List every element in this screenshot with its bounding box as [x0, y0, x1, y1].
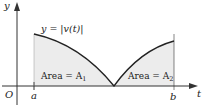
tick-b-label: b	[170, 91, 176, 102]
x-axis-label: t	[197, 88, 202, 99]
tick-a-label: a	[31, 90, 37, 101]
y-axis-arrow-icon	[14, 2, 20, 11]
origin-label: O	[5, 89, 13, 100]
y-axis-label: y	[3, 0, 10, 11]
speed-area-diagram: y t O a b y = |v(t)| Area = A1 Area = A2	[0, 0, 205, 111]
curve-label: y = |v(t)|	[40, 23, 83, 35]
